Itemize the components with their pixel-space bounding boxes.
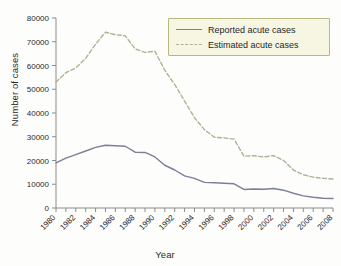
svg-text:1982: 1982	[58, 213, 77, 232]
svg-text:40000: 40000	[27, 109, 50, 118]
svg-text:30000: 30000	[27, 133, 50, 142]
x-axis: 1980198219841986198819901992199419961998…	[38, 208, 334, 232]
svg-text:80000: 80000	[27, 14, 50, 23]
svg-text:1996: 1996	[197, 213, 216, 232]
line-chart: 0100002000030000400005000060000700008000…	[0, 0, 341, 266]
legend-item-reported: Reported acute cases	[169, 22, 329, 37]
svg-text:2004: 2004	[276, 213, 295, 232]
svg-text:1984: 1984	[78, 213, 97, 232]
svg-text:2000: 2000	[236, 213, 255, 232]
data-series-group	[56, 32, 333, 198]
svg-text:60000: 60000	[27, 62, 50, 71]
legend-label-reported: Reported acute cases	[208, 25, 296, 35]
y-axis: 0100002000030000400005000060000700008000…	[27, 14, 56, 213]
chart-legend: Reported acute cases Estimated acute cas…	[168, 18, 330, 56]
legend-swatch-solid-icon	[176, 25, 202, 35]
svg-text:20000: 20000	[27, 157, 50, 166]
legend-swatch-dashed-icon	[176, 40, 202, 50]
svg-text:1986: 1986	[98, 213, 117, 232]
y-axis-title: Number of cases	[9, 50, 20, 130]
svg-text:1990: 1990	[137, 213, 156, 232]
x-axis-title: Year	[120, 249, 210, 260]
svg-text:1992: 1992	[157, 213, 176, 232]
svg-text:2008: 2008	[315, 213, 334, 232]
legend-item-estimated: Estimated acute cases	[169, 37, 329, 52]
svg-text:2006: 2006	[296, 213, 315, 232]
svg-text:10000: 10000	[27, 180, 50, 189]
svg-text:2002: 2002	[256, 213, 275, 232]
svg-text:70000: 70000	[27, 38, 50, 47]
svg-text:1994: 1994	[177, 213, 196, 232]
svg-text:1988: 1988	[118, 213, 137, 232]
svg-text:50000: 50000	[27, 85, 50, 94]
legend-label-estimated: Estimated acute cases	[208, 40, 299, 50]
svg-text:0: 0	[45, 204, 50, 213]
svg-text:1980: 1980	[38, 213, 57, 232]
svg-text:1998: 1998	[217, 213, 236, 232]
